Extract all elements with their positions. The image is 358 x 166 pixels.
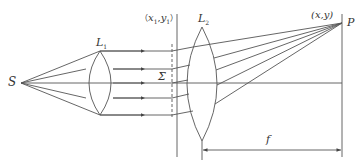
- optics-diagram: [0, 0, 358, 166]
- focal-length-label: f: [266, 134, 270, 145]
- diffracted-rays-in: [172, 47, 193, 115]
- lens-l2-label: L2: [198, 13, 209, 26]
- aperture-label: Σ: [158, 71, 166, 82]
- point-p-label: P: [347, 17, 354, 28]
- aperture-coord-label: （x1,y1）: [140, 13, 178, 25]
- source-label: S: [8, 76, 16, 88]
- screen-coord-label: (x,y): [311, 10, 333, 20]
- lens-l1-label: L1: [96, 37, 107, 50]
